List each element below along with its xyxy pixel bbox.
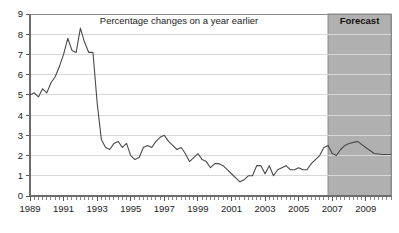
x-tick-label: 1997 [154, 203, 175, 214]
y-tick-label: 3 [18, 130, 23, 141]
x-tick-label: 1989 [19, 203, 40, 214]
x-tick-label: 2001 [221, 203, 242, 214]
forecast-band [328, 14, 391, 196]
chart-container: 0123456789 19891991199319951997199920012… [0, 0, 399, 233]
x-tick-label: 2007 [322, 203, 343, 214]
y-tick-label: 6 [18, 69, 23, 80]
y-tick-label: 4 [18, 110, 23, 121]
y-tick-label: 9 [18, 8, 23, 19]
x-tick-label: 2005 [288, 203, 309, 214]
x-tick-label: 1991 [53, 203, 74, 214]
x-tick-label: 1999 [187, 203, 208, 214]
y-tick-label: 1 [18, 170, 23, 181]
y-tick-label: 5 [18, 89, 23, 100]
forecast-label: Forecast [340, 15, 380, 26]
chart-title: Percentage changes on a year earlier [100, 15, 258, 26]
y-axis-tick-labels: 0123456789 [18, 8, 23, 201]
x-tick-label: 2003 [254, 203, 275, 214]
forecast-shading-group [328, 14, 391, 196]
y-tick-label: 8 [18, 29, 23, 40]
y-tick-label: 7 [18, 49, 23, 60]
x-tick-label: 1993 [87, 203, 108, 214]
x-axis-tick-labels: 1989199119931995199719992001200320052007… [19, 203, 376, 214]
y-tick-label: 2 [18, 150, 23, 161]
y-tick-label: 0 [18, 190, 23, 201]
inflation-line-chart: 0123456789 19891991199319951997199920012… [0, 0, 399, 233]
x-tick-label: 2009 [355, 203, 376, 214]
x-tick-label: 1995 [120, 203, 141, 214]
